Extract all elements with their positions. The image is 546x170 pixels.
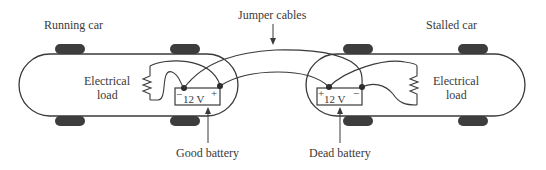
running-car-label: Running car [44, 18, 103, 32]
dead-battery-label: Dead battery [309, 146, 371, 160]
stalled-car-load-wire-top [329, 61, 417, 87]
running-car-load-label-line2: load [97, 88, 118, 102]
running-car-wheel-front-bottom [55, 116, 85, 126]
good-battery-voltage: 12 V [183, 93, 205, 105]
running-car-load-resistor [143, 66, 151, 100]
good-battery-negative-sign: − [176, 88, 182, 100]
good-battery-label: Good battery [176, 146, 239, 160]
stalled-car-wheel-front-bottom [343, 116, 373, 126]
running-car-wheel-rear-top [170, 44, 200, 54]
dead-battery-arrow-head [337, 107, 343, 114]
running-car: − 12 V + Running car Electrical load [19, 18, 238, 126]
dead-battery-voltage: 12 V [324, 93, 346, 105]
jumper-cables-arrow-head [270, 38, 276, 45]
stalled-car-wheel-front-top [343, 44, 373, 54]
running-car-wheel-front-top [55, 44, 85, 54]
battery-labels: Good battery Dead battery [176, 107, 371, 160]
stalled-car-load-label-line2: load [446, 88, 467, 102]
good-battery-positive-sign: + [211, 87, 217, 99]
jumper-cables-label: Jumper cables [238, 8, 307, 22]
running-car-load-label-line1: Electrical [84, 74, 131, 88]
stalled-car-body [306, 54, 525, 116]
jumper-cable-negative [184, 50, 362, 88]
good-battery-arrow-head [205, 107, 211, 114]
stalled-car-load-wire-bottom [362, 84, 417, 105]
stalled-car-load-label-line1: Electrical [433, 74, 480, 88]
running-car-load-wire-top [150, 61, 220, 85]
stalled-car-label: Stalled car [426, 18, 477, 32]
stalled-car-wheel-rear-bottom [458, 116, 488, 126]
stalled-car-wheel-rear-top [458, 44, 488, 54]
jumper-cables: Jumper cables [184, 8, 362, 88]
stalled-car-load-resistor [410, 66, 418, 105]
running-car-wheel-rear-bottom [170, 116, 200, 126]
dead-battery-negative-sign: − [353, 87, 359, 99]
jump-start-diagram: − 12 V + Running car Electrical load + 1… [0, 0, 546, 170]
